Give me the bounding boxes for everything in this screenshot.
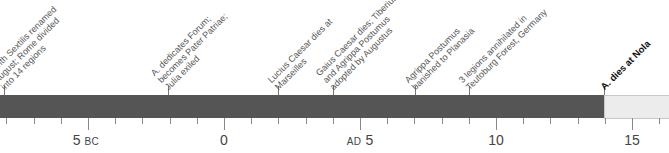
- axis-label-value: 5: [73, 132, 81, 148]
- axis-label-value: 10: [488, 132, 504, 148]
- axis-tick: [360, 118, 361, 130]
- axis-label-value: 5: [366, 132, 374, 148]
- axis-tick: [387, 118, 388, 124]
- axis-tick: [496, 118, 497, 130]
- axis-tick: [578, 118, 579, 124]
- axis-tick: [197, 118, 198, 124]
- axis-tick: [224, 118, 225, 130]
- axis-tick: [115, 118, 116, 124]
- axis-label: AD 5: [347, 132, 374, 148]
- axis-tick: [142, 118, 143, 124]
- axis-tick: [442, 118, 443, 124]
- event-label: 3 legions annihilated in Teutoburg Fores…: [457, 0, 549, 92]
- event-label: Gaius Caesar dies; Tiberius and Agrippa …: [314, 0, 413, 92]
- axis-label: 5 BC: [73, 132, 100, 148]
- axis-label-value: 15: [624, 132, 640, 148]
- reign-period-bar: [0, 95, 604, 118]
- axis-tick: [414, 118, 415, 124]
- axis-label-value: 0: [220, 132, 228, 148]
- axis-tick: [605, 118, 606, 124]
- axis-label-era: AD: [347, 136, 362, 147]
- post-reign-bar: [604, 95, 669, 119]
- axis-label: 15: [624, 132, 640, 148]
- axis-tick: [278, 118, 279, 124]
- axis-tick: [632, 118, 633, 130]
- axis-tick: [523, 118, 524, 124]
- axis-label-era: BC: [84, 136, 99, 147]
- axis-label: 10: [488, 132, 504, 148]
- axis-tick: [469, 118, 470, 124]
- axis-tick: [34, 118, 35, 124]
- axis-tick: [659, 118, 660, 124]
- axis-tick: [251, 118, 252, 124]
- axis-tick: [550, 118, 551, 124]
- axis-tick: [333, 118, 334, 124]
- event-label: A. dedicates Forum; becomes Pater Patria…: [149, 4, 237, 92]
- axis-tick: [6, 118, 7, 124]
- axis-tick: [61, 118, 62, 124]
- axis-tick: [306, 118, 307, 124]
- axis-label: 0: [220, 132, 228, 148]
- axis-tick: [88, 118, 89, 130]
- event-label: A. dies at Nola: [599, 39, 652, 92]
- event-label: Month Sextilis renamed August; Rome divi…: [0, 4, 73, 92]
- axis-tick: [170, 118, 171, 124]
